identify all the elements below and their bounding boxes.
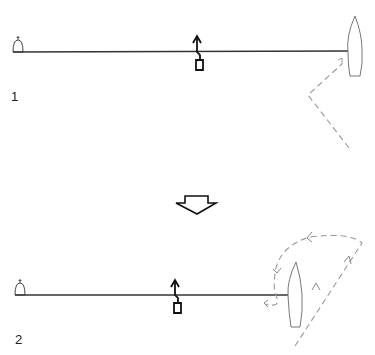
approach-arrowhead-icon [338, 58, 342, 64]
path-arrowhead-icon [344, 256, 351, 264]
anchor-buoy-icon [15, 279, 25, 295]
panel-2 [15, 232, 362, 346]
panel-1-label: 1 [11, 89, 18, 104]
diagram-canvas: 1 2 [0, 0, 375, 355]
circling-path [266, 235, 362, 346]
panel-1 [13, 16, 362, 148]
mooring-line [13, 51, 348, 52]
path-arrowhead-icon [312, 283, 320, 290]
down-arrow-icon [176, 196, 216, 214]
hook-symbol-icon [171, 280, 181, 313]
anchor-buoy-icon [13, 36, 23, 52]
path-arrowhead-icon [273, 268, 281, 273]
boat-icon [348, 16, 363, 76]
approach-path [308, 64, 349, 148]
boat-icon [288, 262, 302, 327]
hook-symbol-icon [193, 36, 203, 70]
panel-2-label: 2 [15, 332, 22, 347]
path-arrowhead-icon [264, 300, 268, 307]
